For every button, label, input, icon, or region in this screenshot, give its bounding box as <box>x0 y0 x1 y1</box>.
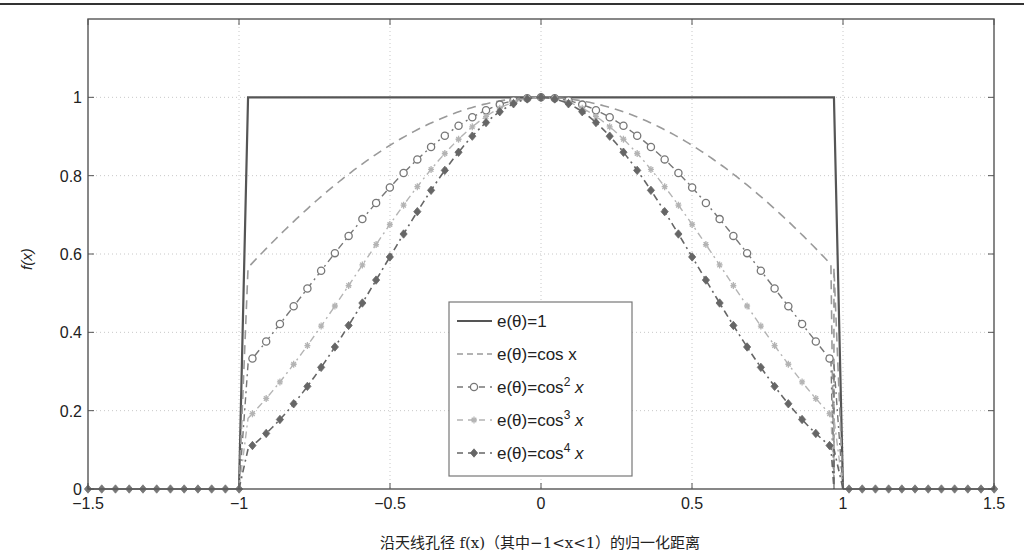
star-marker <box>332 302 338 309</box>
x-tick-label: 1 <box>839 495 848 512</box>
star-marker <box>827 410 833 417</box>
circle-marker <box>798 320 805 327</box>
circle-marker <box>470 383 477 390</box>
star-marker <box>414 183 420 190</box>
circle-marker <box>812 338 819 345</box>
star-marker <box>813 395 819 402</box>
diamond-marker <box>675 230 682 238</box>
circle-marker <box>427 143 434 150</box>
star-marker <box>717 261 723 268</box>
circle-marker <box>441 132 448 139</box>
star-marker <box>634 150 640 157</box>
diamond-marker <box>414 207 421 215</box>
star-marker <box>799 378 805 385</box>
star-marker <box>703 241 709 248</box>
diamond-marker <box>661 207 668 215</box>
diamond-marker <box>647 186 654 194</box>
star-marker <box>772 342 778 349</box>
y-tick-label: 1 <box>73 89 82 106</box>
circle-marker <box>702 199 709 206</box>
star-marker <box>346 282 352 289</box>
legend-label: e(θ)=cos x <box>497 345 577 364</box>
circle-marker <box>757 267 764 274</box>
star-marker <box>304 342 310 349</box>
star-marker <box>469 123 475 130</box>
circle-marker <box>455 122 462 129</box>
circle-marker <box>414 156 421 163</box>
y-axis-title: f(x) <box>18 248 35 270</box>
star-marker <box>428 166 434 173</box>
star-marker <box>263 395 269 402</box>
star-marker <box>456 136 462 143</box>
circle-marker <box>826 355 833 362</box>
circle-marker <box>634 132 641 139</box>
star-marker <box>291 361 297 368</box>
x-axis-title: 沿天线孔径 f(x)（其中−1<x<1）的归一化距离 <box>0 531 1024 552</box>
y-tick-label: 0 <box>73 481 82 498</box>
circle-marker <box>647 143 654 150</box>
legend-label: e(θ)=cos3 x <box>497 408 584 430</box>
circle-marker <box>620 122 627 129</box>
circle-marker <box>469 114 476 121</box>
circle-marker <box>661 156 668 163</box>
x-tick-label: −0.5 <box>374 495 406 512</box>
legend: e(θ)=1e(θ)=cos xe(θ)=cos2 xe(θ)=cos3 xe(… <box>449 302 632 476</box>
star-marker <box>318 323 324 330</box>
star-marker <box>359 261 365 268</box>
circle-marker <box>386 184 393 191</box>
circle-marker <box>675 169 682 176</box>
star-marker <box>471 417 477 424</box>
legend-label: e(θ)=cos4 x <box>497 441 584 463</box>
star-marker <box>662 183 668 190</box>
legend-label: e(θ)=1 <box>497 312 547 331</box>
circle-marker <box>318 267 325 274</box>
circle-marker <box>482 107 489 114</box>
circle-marker <box>606 114 613 121</box>
legend-label: e(θ)=cos2 x <box>497 375 584 397</box>
star-marker <box>607 123 613 130</box>
star-marker <box>620 136 626 143</box>
star-marker <box>744 302 750 309</box>
star-marker <box>785 361 791 368</box>
star-marker <box>730 282 736 289</box>
circle-marker <box>373 199 380 206</box>
y-tick-label: 0.6 <box>60 246 82 263</box>
star-marker <box>277 378 283 385</box>
star-marker <box>387 221 393 228</box>
circle-marker <box>689 184 696 191</box>
circle-marker <box>592 107 599 114</box>
x-tick-label: 0 <box>537 495 546 512</box>
x-tick-label: −1 <box>230 495 248 512</box>
chart-canvas: −1.5−1−0.500.511.500.20.40.60.81 e(θ)=1e… <box>0 0 1024 560</box>
circle-marker <box>744 250 751 257</box>
star-marker <box>373 241 379 248</box>
x-tick-label: 1.5 <box>983 495 1005 512</box>
x-tick-label: 0.5 <box>681 495 703 512</box>
star-marker <box>675 202 681 209</box>
circle-marker <box>359 216 366 223</box>
circle-marker <box>345 232 352 239</box>
diamond-marker <box>785 400 792 408</box>
circle-marker <box>249 355 256 362</box>
circle-marker <box>400 169 407 176</box>
diamond-marker <box>290 400 297 408</box>
diamond-marker <box>606 132 613 140</box>
circle-marker <box>716 216 723 223</box>
circle-marker <box>290 303 297 310</box>
circle-marker <box>771 285 778 292</box>
star-marker <box>689 221 695 228</box>
circle-marker <box>785 303 792 310</box>
diamond-marker <box>249 441 256 449</box>
circle-marker <box>304 285 311 292</box>
star-marker <box>758 323 764 330</box>
y-tick-label: 0.4 <box>60 324 82 341</box>
y-tick-label: 0.8 <box>60 168 82 185</box>
star-marker <box>442 150 448 157</box>
star-marker <box>249 410 255 417</box>
y-tick-label: 0.2 <box>60 403 82 420</box>
star-marker <box>401 202 407 209</box>
circle-marker <box>263 338 270 345</box>
circle-marker <box>331 250 338 257</box>
circle-marker <box>730 232 737 239</box>
circle-marker <box>276 320 283 327</box>
